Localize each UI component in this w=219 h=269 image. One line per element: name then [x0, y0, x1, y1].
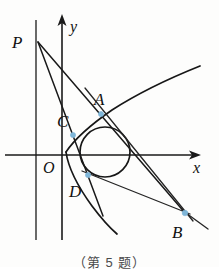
- point-marker-b: [182, 210, 188, 216]
- point-label-p: P: [11, 33, 22, 52]
- point-label-d: D: [68, 182, 82, 201]
- point-label-a: A: [93, 90, 105, 109]
- point-marker-c: [70, 132, 75, 137]
- segment-db: [82, 171, 190, 214]
- y-axis-label: y: [68, 18, 78, 36]
- point-marker-d: [85, 172, 90, 177]
- point-marker-a: [98, 111, 103, 116]
- x-axis-label: x: [192, 159, 200, 176]
- parabola-upper-branch: [66, 66, 200, 152]
- point-label-c: C: [57, 112, 69, 131]
- segment-stub-b: [186, 213, 208, 229]
- figure-caption: （第 5 题）: [0, 253, 219, 269]
- origin-label: O: [43, 159, 55, 176]
- point-label-b: B: [172, 223, 183, 242]
